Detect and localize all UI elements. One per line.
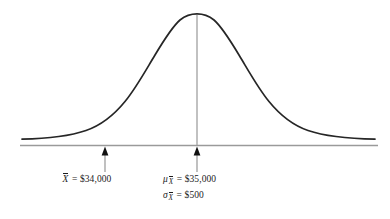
population-mean-label-line: μX=$35,000 [163, 173, 216, 189]
sample-mean-symbol: X [62, 173, 69, 186]
population-mean-symbol: μ [163, 174, 168, 184]
sample-mean-label: X=$34,000 [62, 173, 111, 186]
sample-mean-equals: = [72, 174, 77, 184]
sample-mean-value: $34,000 [80, 174, 112, 184]
population-mean-equals: = [177, 174, 182, 184]
sample-mean-arrow [102, 147, 109, 173]
standard-error-symbol: σ [163, 190, 168, 200]
standard-error-label-line: σX=$500 [163, 189, 216, 205]
population-mean-subscript: X [168, 176, 174, 189]
standard-error-subscript-symbol: X [168, 192, 174, 205]
standard-error-value: $500 [185, 190, 204, 200]
population-mean-arrow [194, 147, 201, 173]
figure-container: X=$34,000 μX=$35,000 σX=$500 [0, 0, 390, 219]
sample-mean-arrow-head [102, 147, 109, 156]
standard-error-equals: = [177, 190, 182, 200]
population-mean-value: $35,000 [185, 174, 217, 184]
population-mean-subscript-symbol: X [168, 176, 174, 189]
population-mean-arrow-head [194, 147, 201, 156]
sample-mean-label-line: X=$34,000 [62, 173, 111, 186]
population-parameters-label: μX=$35,000 σX=$500 [163, 173, 216, 204]
standard-error-subscript: X [168, 192, 174, 205]
bell-curve-path [22, 14, 375, 139]
